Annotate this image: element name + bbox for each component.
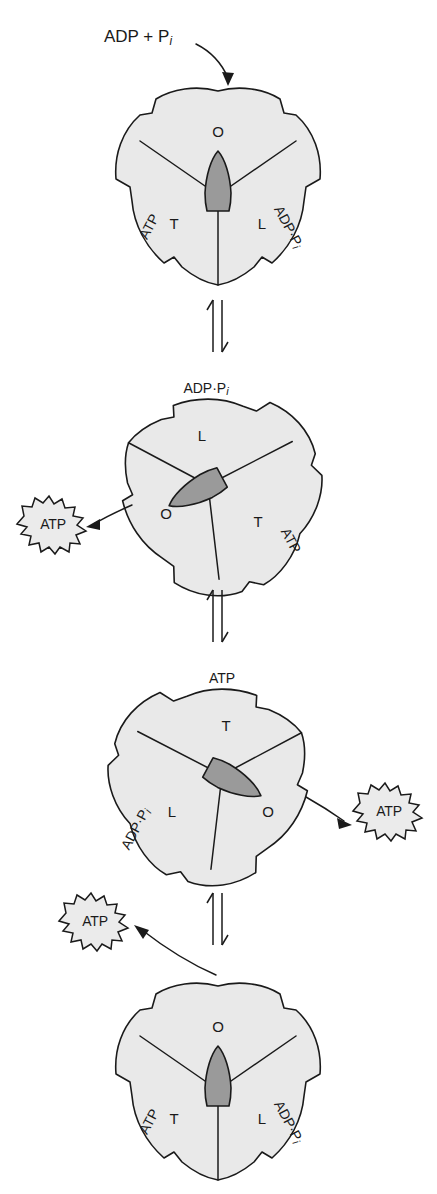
- equil-3-up-head: [207, 893, 213, 903]
- panel-3: T L O ATP ADP·Pi ATP: [80, 642, 422, 915]
- atp-burst-label-panel-2: ATP: [40, 516, 66, 532]
- panel-2: L O T ADP·Pi ATP ATP: [17, 352, 350, 625]
- outgoing-arrow-head-panel-3: [337, 818, 352, 829]
- reactant-adp-pi-label: ADP + Pi: [104, 27, 172, 48]
- atp-burst-panel-3: ATP: [353, 783, 422, 841]
- panel-1: ADP + Pi O T L ATP: [104, 27, 320, 285]
- equil-3-down-head: [222, 935, 228, 945]
- site-label-o-panel-2: O: [160, 505, 172, 522]
- slot-atp-label-panel-3: ATP: [209, 670, 235, 686]
- enzyme-complex-panel-2: L O T ADP·Pi ATP: [81, 352, 351, 625]
- site-label-l-panel-3: L: [168, 803, 176, 820]
- equilibrium-arrow-3: [207, 893, 228, 945]
- incoming-arrow-head-panel-1: [222, 72, 234, 86]
- site-label-t-panel-3: T: [221, 717, 230, 734]
- site-label-t-panel-1: T: [169, 215, 178, 232]
- atp-synthase-binding-change-figure: ADP + Pi O T L ATP: [0, 0, 437, 1194]
- atp-burst-label-panel-3: ATP: [376, 803, 402, 819]
- site-label-o-panel-1: O: [212, 123, 224, 140]
- enzyme-complex-panel-1: O T L ATP ADP·Pi: [116, 88, 321, 285]
- atp-burst-label-panel-4: ATP: [82, 913, 108, 929]
- site-label-l-panel-4: L: [258, 1110, 266, 1127]
- equilibrium-arrow-1: [207, 300, 228, 352]
- site-label-l-panel-2: L: [198, 427, 206, 444]
- slot-adp-pi-label-panel-2: ADP·Pi: [183, 380, 229, 397]
- outgoing-arrow-head-panel-4: [134, 925, 149, 939]
- diagram-canvas: ADP + Pi O T L ATP: [0, 0, 437, 1194]
- enzyme-complex-panel-3: T L O ATP ADP·Pi: [80, 642, 350, 915]
- enzyme-complex-panel-4: O T L ATP ADP·Pi: [116, 983, 321, 1180]
- panel-4: ATP O T L ATP ADP·Pi: [59, 893, 320, 1180]
- equil-2-down-head: [222, 632, 228, 642]
- site-label-o-panel-4: O: [212, 1018, 224, 1035]
- outgoing-arrow-head-panel-2: [86, 519, 100, 530]
- site-label-o-panel-3: O: [262, 803, 274, 820]
- atp-burst-panel-2: ATP: [17, 496, 86, 554]
- equil-1-up-head: [207, 300, 213, 310]
- equil-1-down-head: [222, 342, 228, 352]
- outgoing-arrow-panel-3: [306, 797, 344, 821]
- site-label-t-panel-2: T: [253, 513, 262, 530]
- site-label-l-panel-1: L: [258, 215, 266, 232]
- equilibrium-arrow-2: [207, 590, 228, 642]
- atp-burst-panel-4: ATP: [59, 893, 128, 951]
- site-label-t-panel-4: T: [169, 1110, 178, 1127]
- outgoing-arrow-panel-4: [142, 930, 216, 975]
